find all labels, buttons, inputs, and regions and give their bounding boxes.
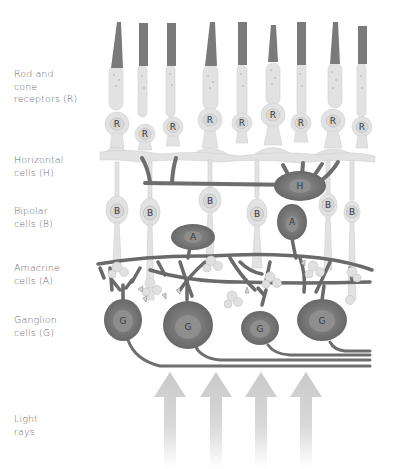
ganglion-letter: G — [120, 316, 127, 326]
receptor-letter: R — [170, 122, 176, 132]
amacrine-letter: A — [190, 232, 197, 242]
receptor-letter: R — [239, 118, 245, 128]
bipolar-letter: B — [254, 209, 260, 219]
rod-outer-segment — [238, 22, 247, 65]
horizontal-letter: H — [297, 181, 304, 191]
receptor-letter: R — [114, 119, 120, 129]
light-ray-arrow-icon — [200, 372, 232, 468]
light-ray-arrow-icon — [290, 372, 322, 468]
bipolar-letter: B — [349, 207, 355, 217]
rod-outer-segment — [139, 23, 148, 66]
receptor-letter: R — [330, 116, 336, 126]
retina-diagram: R R R R R R R R R — [0, 0, 397, 469]
receptor-letter: R — [207, 115, 213, 125]
cone-outer-segment — [330, 22, 340, 64]
light-ray-arrows — [154, 366, 322, 468]
bipolar-letter: B — [207, 196, 213, 206]
rod-outer-segment — [358, 26, 367, 64]
receptor-layer: R R R R R R R R R — [100, 22, 375, 163]
light-ray-arrow-icon — [154, 372, 186, 468]
amacrine-letter: A — [289, 217, 296, 227]
ganglion-letter: G — [185, 322, 192, 332]
ganglion-letter: G — [257, 324, 264, 334]
cone-outer-segment — [111, 22, 123, 68]
light-ray-arrow-icon — [245, 372, 277, 468]
receptor-letter: R — [142, 129, 148, 139]
rod-outer-segment — [297, 22, 306, 65]
horizontal-cell: H — [142, 158, 338, 201]
bipolar-letter: B — [147, 208, 153, 218]
rod-outer-segment — [167, 23, 176, 66]
receptor-letter: R — [359, 122, 365, 132]
bipolar-letter: B — [114, 206, 120, 216]
cone-outer-segment — [205, 22, 217, 66]
receptor-letter: R — [298, 118, 304, 128]
receptor-letter: R — [270, 110, 276, 120]
bipolar-letter: B — [325, 200, 331, 210]
cone-outer-segment — [268, 25, 278, 62]
ganglion-letter: G — [319, 316, 326, 326]
